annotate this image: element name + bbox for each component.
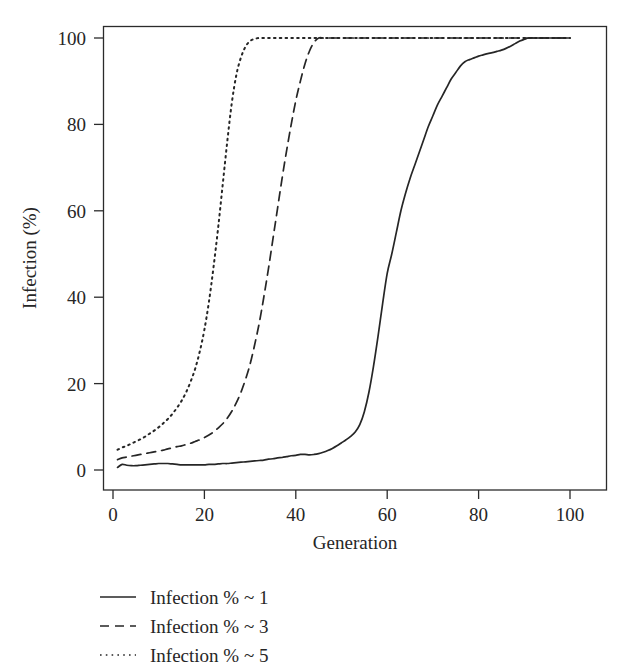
x-tick-label: 80 bbox=[469, 504, 488, 525]
x-tick-label: 60 bbox=[378, 504, 397, 525]
x-tick-label: 100 bbox=[556, 504, 585, 525]
y-axis-title: Infection (%) bbox=[19, 207, 41, 309]
x-axis-title: Generation bbox=[313, 532, 398, 553]
y-tick-label: 40 bbox=[67, 287, 86, 308]
y-tick-label: 20 bbox=[67, 374, 86, 395]
x-tick-label: 40 bbox=[286, 504, 305, 525]
legend-label-1: Infection % ~ 1 bbox=[150, 587, 268, 608]
line-chart: 020406080100 020406080100 Generation Inf… bbox=[0, 0, 638, 670]
legend-label-2: Infection % ~ 3 bbox=[150, 616, 268, 637]
x-tick-label: 0 bbox=[108, 504, 118, 525]
y-tick-label: 0 bbox=[77, 460, 87, 481]
chart-background bbox=[0, 0, 638, 670]
y-tick-label: 80 bbox=[67, 114, 86, 135]
y-tick-label: 100 bbox=[58, 28, 87, 49]
chart-figure: 020406080100 020406080100 Generation Inf… bbox=[0, 0, 638, 670]
legend-label-3: Infection % ~ 5 bbox=[150, 645, 268, 666]
y-tick-label: 60 bbox=[67, 201, 86, 222]
x-tick-label: 20 bbox=[195, 504, 214, 525]
